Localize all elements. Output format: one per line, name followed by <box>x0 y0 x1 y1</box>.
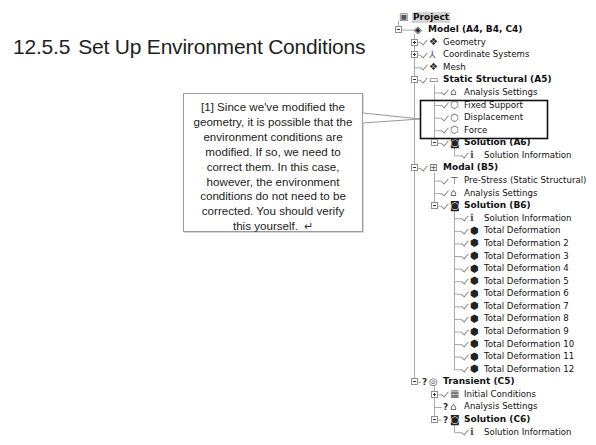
tree-item[interactable]: ⊤Pre-Stress (Static Structural) <box>442 175 587 187</box>
total-deformation-icon: ⬢ <box>470 327 480 337</box>
tree-item[interactable]: ⬡Force <box>442 124 488 136</box>
expand-icon[interactable] <box>431 391 438 398</box>
tree-item[interactable]: ⌂Analysis Settings <box>442 187 538 199</box>
status-check-icon <box>462 151 469 159</box>
tree-item[interactable]: ⬢Total Deformation 10 <box>462 338 575 350</box>
pre-stress-icon: ⊤ <box>450 176 460 186</box>
mesh-icon: ❖ <box>429 62 439 72</box>
tree-item[interactable]: ▭Static Structural (A5) <box>421 74 553 86</box>
status-check-icon <box>462 302 469 310</box>
status-check-icon <box>421 51 428 59</box>
tree-item[interactable]: ⬢Total Deformation 4 <box>462 263 570 275</box>
tree-item[interactable]: ◙Solution (B6) <box>442 200 532 212</box>
collapse-icon[interactable] <box>411 378 418 385</box>
tree-item[interactable]: ℹSolution Information <box>462 426 573 438</box>
status-question-icon: ? <box>421 377 428 387</box>
collapse-icon[interactable] <box>431 202 438 209</box>
solution-icon: ◙ <box>450 415 460 425</box>
tree-item-label: Pre-Stress (Static Structural) <box>463 175 587 186</box>
force-icon: ⬡ <box>450 125 460 135</box>
tree-item[interactable]: ?◙Solution (C6) <box>442 414 531 426</box>
tree-item[interactable]: ⊞Modal (B5) <box>421 162 499 174</box>
tree-item[interactable]: ⬢Total Deformation 2 <box>462 237 570 249</box>
tree-item-label: Model (A4, B4, C4) <box>427 24 523 35</box>
solution-icon: ◙ <box>450 138 460 148</box>
tree-item-label: Total Deformation 2 <box>483 238 570 249</box>
total-deformation-icon: ⬢ <box>470 226 480 236</box>
collapse-icon[interactable] <box>431 416 438 423</box>
tree-item-label: Initial Conditions <box>463 389 537 400</box>
tree-item[interactable]: ?⌂Analysis Settings <box>442 401 538 413</box>
total-deformation-icon: ⬢ <box>470 289 480 299</box>
status-check-icon <box>462 227 469 235</box>
status-check-icon <box>462 277 469 285</box>
total-deformation-icon: ⬢ <box>470 352 480 362</box>
status-check-icon <box>421 76 428 84</box>
tree-item[interactable]: ⬢Total Deformation 3 <box>462 250 570 262</box>
tree-item-label: Solution (C6) <box>463 414 531 425</box>
tree-item[interactable]: ⬢Total Deformation 9 <box>462 326 570 338</box>
tree-item[interactable]: ℹSolution Information <box>462 212 573 224</box>
solution-information-icon: ℹ <box>470 213 480 223</box>
tree-item[interactable]: ⬢Total Deformation <box>462 225 561 237</box>
tree-item-label: Total Deformation 10 <box>483 339 575 350</box>
tree-item[interactable]: ▦Initial Conditions <box>442 388 537 400</box>
status-check-icon <box>462 214 469 222</box>
tree-item[interactable]: ⬢Total Deformation 6 <box>462 288 570 300</box>
tree-item[interactable]: ⬢Total Deformation 8 <box>462 313 570 325</box>
status-check-icon <box>462 239 469 247</box>
status-check-icon <box>462 340 469 348</box>
status-check-icon <box>442 390 449 398</box>
tree-item-label: Total Deformation 11 <box>483 351 575 362</box>
tree-item-label: Static Structural (A5) <box>442 74 553 85</box>
collapse-icon[interactable] <box>431 139 438 146</box>
tree-item-label: Total Deformation 3 <box>483 251 570 262</box>
tree-item[interactable]: ⌂Analysis Settings <box>442 86 538 98</box>
tree-item-label: Total Deformation 8 <box>483 313 570 324</box>
tree-item-label: Geometry <box>442 37 487 48</box>
tree-item[interactable]: ⅄Coordinate Systems <box>421 49 530 61</box>
tree-item-label: Total Deformation 4 <box>483 263 570 274</box>
total-deformation-icon: ⬢ <box>470 301 480 311</box>
expand-icon[interactable] <box>411 39 418 46</box>
tree-item[interactable]: ▣Project <box>399 11 450 23</box>
tree-item-label: Solution (A6) <box>463 137 532 148</box>
status-check-icon <box>462 315 469 323</box>
status-check-icon <box>462 365 469 373</box>
tree-item[interactable]: ℹSolution Information <box>462 149 573 161</box>
expand-icon[interactable] <box>411 51 418 58</box>
tree-item-label: Total Deformation 9 <box>483 326 570 337</box>
tree-item[interactable]: ◙Solution (A6) <box>442 137 532 149</box>
tree-item[interactable]: ⬢Total Deformation 7 <box>462 300 570 312</box>
status-check-icon <box>421 164 428 172</box>
analysis-settings-icon: ⌂ <box>450 87 460 97</box>
geometry-icon: ❖ <box>429 37 439 47</box>
total-deformation-icon: ⬢ <box>470 339 480 349</box>
displacement-icon: ⬡ <box>450 113 460 123</box>
tree-item-label: Solution (B6) <box>463 200 532 211</box>
status-check-icon <box>442 202 449 210</box>
collapse-icon[interactable] <box>411 164 418 171</box>
solution-information-icon: ℹ <box>470 150 480 160</box>
tree-item-label: Total Deformation 7 <box>483 301 570 312</box>
tree-item[interactable]: ⬡Displacement <box>442 112 524 124</box>
tree-item[interactable]: ◈Model (A4, B4, C4) <box>414 24 523 36</box>
collapse-icon[interactable] <box>395 26 402 33</box>
tree-item[interactable]: ⬢Total Deformation 11 <box>462 351 575 363</box>
tree-item-label: Total Deformation 12 <box>483 364 575 375</box>
tree-item-label: Solution Information <box>483 213 573 224</box>
collapse-icon[interactable] <box>411 76 418 83</box>
tree-item[interactable]: ❖Geometry <box>421 36 487 48</box>
total-deformation-icon: ⬢ <box>470 238 480 248</box>
status-check-icon <box>442 189 449 197</box>
outline-tree[interactable]: ▣Project◈Model (A4, B4, C4)❖Geometry⅄Coo… <box>0 0 596 445</box>
tree-item-label: Transient (C5) <box>442 376 516 387</box>
modal-icon: ⊞ <box>429 163 439 173</box>
tree-item[interactable]: ?◎Transient (C5) <box>421 376 516 388</box>
status-question-icon: ? <box>442 402 449 412</box>
tree-item[interactable]: ❖Mesh <box>421 61 467 73</box>
tree-item[interactable]: ⬢Total Deformation 12 <box>462 363 575 375</box>
tree-item[interactable]: ⬡Fixed Support <box>442 99 524 111</box>
tree-item[interactable]: ⬢Total Deformation 5 <box>462 275 570 287</box>
total-deformation-icon: ⬢ <box>470 251 480 261</box>
